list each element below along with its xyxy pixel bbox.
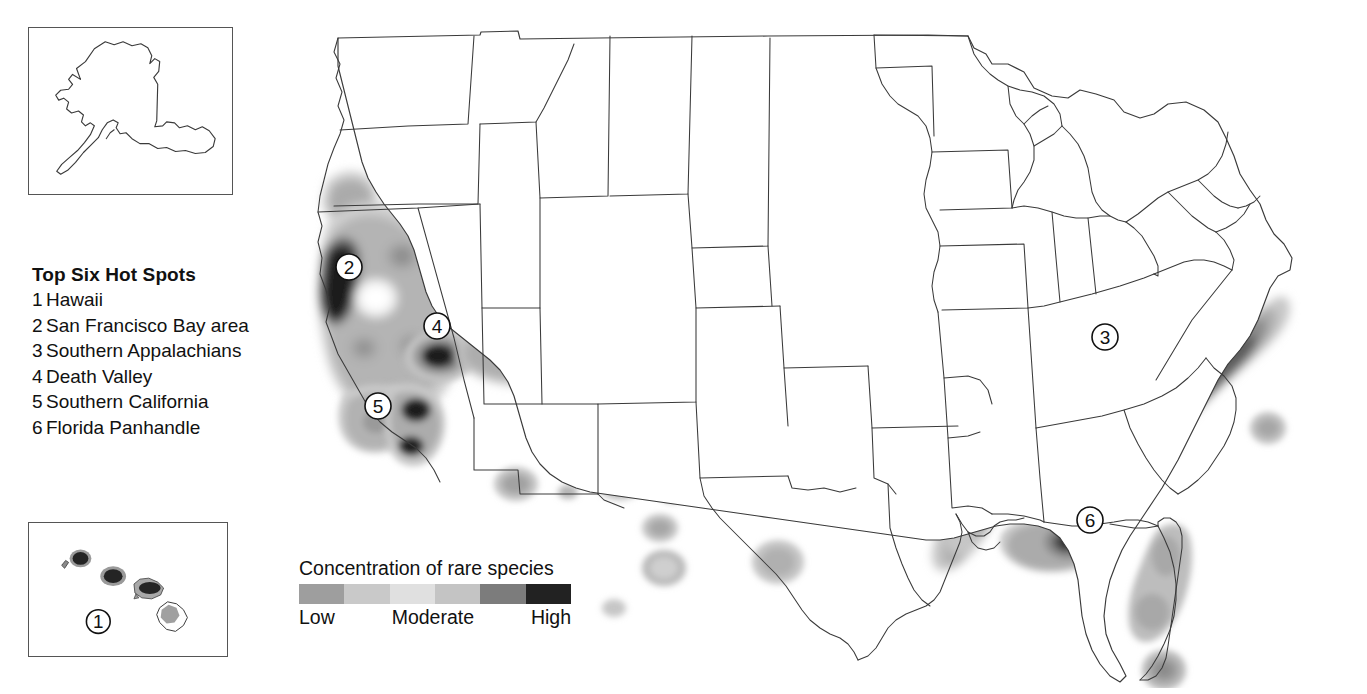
hotspot-number-4: 4 bbox=[32, 364, 46, 390]
legend-color-ramp bbox=[299, 584, 571, 604]
hotspot-item-1: 1Hawaii bbox=[32, 287, 292, 313]
map-marker-3[interactable]: 3 bbox=[1092, 324, 1118, 350]
legend-label-high: High bbox=[531, 605, 571, 630]
hotspot-number-5: 5 bbox=[32, 389, 46, 415]
hotspot-number-2: 2 bbox=[32, 313, 46, 339]
hotspot-item-5: 5Southern California bbox=[32, 389, 292, 415]
hotspot-number-1: 1 bbox=[32, 287, 46, 313]
map-marker-4[interactable]: 4 bbox=[424, 313, 450, 339]
hotspot-label-2: San Francisco Bay area bbox=[46, 315, 249, 336]
hotspot-number-6: 6 bbox=[32, 415, 46, 441]
hotspot-number-3: 3 bbox=[32, 338, 46, 364]
map-marker-4-label: 4 bbox=[432, 316, 443, 337]
map-marker-6[interactable]: 6 bbox=[1077, 507, 1103, 533]
map-marker-6-label: 6 bbox=[1085, 510, 1096, 531]
legend-swatch-2 bbox=[344, 584, 389, 604]
hotspot-item-6: 6Florida Panhandle bbox=[32, 415, 292, 441]
map-marker-5-label: 5 bbox=[373, 396, 384, 417]
map-marker-2-label: 2 bbox=[344, 257, 355, 278]
alaska-inset bbox=[28, 27, 233, 195]
hotspot-label-5: Southern California bbox=[46, 391, 209, 412]
hotspot-label-3: Southern Appalachians bbox=[46, 340, 241, 361]
legend-swatch-6 bbox=[526, 584, 571, 604]
legend-label-low: Low bbox=[299, 605, 335, 630]
alaska-outline bbox=[29, 28, 232, 194]
hawaii-marker-label: 1 bbox=[93, 611, 103, 632]
map-marker-3-label: 3 bbox=[1100, 327, 1111, 348]
hawaii-islands: 1 bbox=[29, 523, 227, 656]
legend-swatch-4 bbox=[435, 584, 480, 604]
hotspot-item-3: 3Southern Appalachians bbox=[32, 338, 292, 364]
map-marker-5[interactable]: 5 bbox=[365, 393, 391, 419]
legend-swatch-5 bbox=[480, 584, 525, 604]
hotspot-label-4: Death Valley bbox=[46, 366, 152, 387]
hotspot-list-title: Top Six Hot Spots bbox=[32, 262, 292, 287]
hotspot-item-2: 2San Francisco Bay area bbox=[32, 313, 292, 339]
map-marker-2[interactable]: 2 bbox=[336, 254, 362, 280]
legend-swatch-1 bbox=[299, 584, 344, 604]
legend-labels: Low Moderate High bbox=[299, 605, 571, 630]
concentration-legend: Concentration of rare species Low Modera… bbox=[299, 556, 571, 630]
hawaii-inset: 1 bbox=[28, 522, 228, 657]
legend-swatch-3 bbox=[390, 584, 435, 604]
hotspot-label-1: Hawaii bbox=[46, 289, 103, 310]
hotspot-list: Top Six Hot Spots 1Hawaii 2San Francisco… bbox=[32, 262, 292, 440]
hotspot-label-6: Florida Panhandle bbox=[46, 417, 200, 438]
hotspot-item-4: 4Death Valley bbox=[32, 364, 292, 390]
legend-label-moderate: Moderate bbox=[392, 605, 474, 630]
legend-title: Concentration of rare species bbox=[299, 556, 571, 580]
